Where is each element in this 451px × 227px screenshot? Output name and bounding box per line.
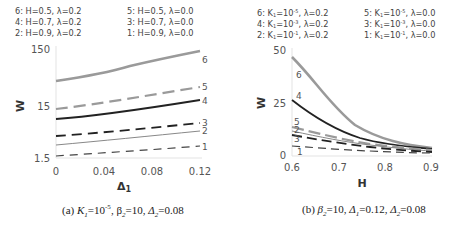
panel-b-ylabel: W: [255, 97, 268, 109]
panel-a-xtick-0.04: 0.04: [93, 166, 115, 177]
panel-a-curve-5: [56, 87, 200, 109]
panel-a-curve-6: [56, 51, 200, 81]
panel-a-curve-label-1: 1: [202, 142, 208, 152]
panel-a-caption: (a) K1=10-5, β2=10, Δ2=0.08: [62, 203, 184, 219]
charts-canvas: 150 15 1.5 0 0.04 0.08 0.12 W Δ1 6 5 4 3…: [0, 0, 451, 227]
panel-a-curve-1: [56, 146, 200, 156]
panel-a-ytick-150: 150: [31, 44, 50, 55]
panel-a-ytick-1.5: 1.5: [34, 153, 50, 164]
panel-b-curve-6: [292, 57, 432, 148]
panel-b-xtick-0.9: 0.9: [423, 162, 439, 173]
panel-b-xlabel: H: [357, 177, 366, 190]
panel-a-xtick-0: 0: [53, 166, 59, 177]
panel-b-xtick-0.6: 0.6: [284, 162, 300, 173]
panel-b-caption: (b) β2=10, Δ1=0.12, Δ2=0.08: [302, 203, 426, 218]
panel-b-curve-label-3: 3: [294, 134, 300, 144]
panel-a-curve-label-6: 6: [202, 55, 208, 65]
panel-b-xtick-0.7: 0.7: [331, 162, 347, 173]
panel-a-chart: 150 15 1.5 0 0.04 0.08 0.12 W Δ1 6 5 4 3…: [14, 44, 211, 194]
panel-b-curve-label-6: 6: [296, 70, 302, 80]
panel-b-ytick-50: 50: [273, 45, 286, 56]
panel-b-ytick-0: 0: [280, 150, 286, 161]
panel-b-curve-label-1: 1: [297, 147, 303, 157]
panel-a-xlabel: Δ1: [117, 180, 132, 194]
panel-a-curve-4: [56, 100, 200, 119]
panel-a-ylabel: W: [14, 100, 27, 112]
panel-a-curve-label-4: 4: [202, 96, 208, 106]
panel-a-curve-2: [56, 131, 200, 145]
panel-b-ytick-25: 25: [273, 98, 286, 109]
panel-a-xtick-0.12: 0.12: [189, 166, 211, 177]
panel-a-curve-3: [56, 123, 200, 136]
panel-b-curve-label-4: 4: [296, 91, 302, 101]
panel-a-xtick-0.08: 0.08: [141, 166, 163, 177]
panel-a-curve-label-2: 2: [202, 126, 208, 136]
panel-a-curve-label-5: 5: [202, 82, 208, 92]
panel-a-ytick-15: 15: [37, 101, 50, 112]
panel-b-chart: 50 25 0 0.6 0.7 0.8 0.9 W H 6 4 5 2 3 1: [255, 45, 439, 190]
panel-b-xtick-0.8: 0.8: [377, 162, 393, 173]
